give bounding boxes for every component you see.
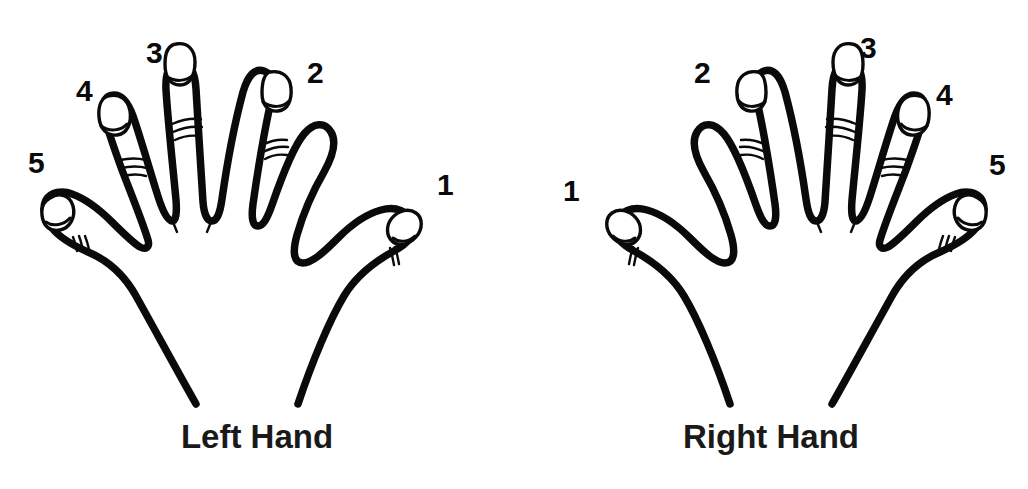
left-digit-3-label: 3: [146, 38, 162, 68]
right-digit-5-label: 5: [989, 150, 1005, 180]
left-digit-5-label: 5: [28, 148, 44, 178]
left-digit-1-label: 1: [437, 170, 453, 200]
right-digit-1-label: 1: [563, 176, 579, 206]
left-hand-caption: Left Hand: [0, 420, 514, 453]
left-index-crease-3: [265, 155, 287, 159]
left-index-crease-2: [263, 147, 288, 152]
right-digit-3-label: 3: [860, 33, 876, 63]
right-digit-2-label: 2: [694, 58, 710, 88]
left-digit-2-label: 2: [307, 58, 323, 88]
right-index-crease-3: [741, 155, 763, 159]
right-hand-drawing: [514, 0, 1028, 489]
right-digit-4-label: 4: [936, 80, 952, 110]
right-index-crease-2: [740, 147, 765, 152]
left-hand-panel: 1 2 3 4 5 Left Hand: [0, 0, 514, 489]
hand-digit-numbering-figure: 1 2 3 4 5 Left Hand: [0, 0, 1028, 489]
left-digit-4-label: 4: [76, 76, 92, 106]
right-hand-panel: 1 2 3 4 5 Right Hand: [514, 0, 1028, 489]
right-hand-caption: Right Hand: [514, 420, 1028, 453]
